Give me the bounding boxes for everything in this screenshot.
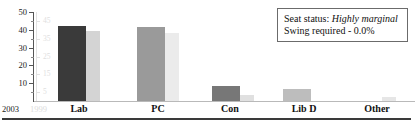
bar-current: [212, 86, 240, 101]
bar-chart: 1020304050 515253545 LabPCConLib DOther …: [0, 0, 415, 125]
bar-current: [58, 26, 86, 101]
bottom-rule: [2, 118, 411, 120]
y-tick-label: 50: [19, 8, 28, 17]
year-label-previous: 1999: [30, 104, 47, 114]
y-axis: 1020304050: [0, 12, 34, 102]
bar-previous: [240, 95, 254, 101]
bar-group: [137, 12, 179, 101]
seat-status-label: Seat status:: [284, 13, 329, 24]
seat-status-value: Highly marginal: [332, 13, 398, 24]
category-label: Other: [364, 103, 390, 115]
year-label-current: 2003: [2, 104, 19, 114]
seat-status-box: Seat status: Highly marginal Swing requi…: [277, 8, 408, 42]
y-tick-label: 30: [19, 43, 28, 52]
x-axis-baseline: [34, 101, 415, 102]
category-axis-labels: LabPCConLib DOther: [34, 103, 415, 117]
category-label: Lib D: [292, 103, 317, 115]
category-label: Lab: [70, 103, 87, 115]
bar-previous: [86, 31, 100, 101]
bar-current: [137, 27, 165, 101]
bar-previous: [382, 97, 396, 101]
y-tick-label: 20: [19, 61, 28, 70]
bar-previous: [165, 33, 179, 101]
category-label: Con: [221, 103, 239, 115]
category-label: PC: [151, 103, 164, 115]
swing-required-line: Swing required - 0.0%: [284, 25, 402, 37]
y-tick-label: 40: [19, 26, 28, 35]
seat-status-line: Seat status: Highly marginal: [284, 13, 402, 25]
bar-group: [58, 12, 100, 101]
y-tick-label: 10: [19, 79, 28, 88]
bar-current: [283, 89, 311, 101]
bar-group: [212, 12, 254, 101]
